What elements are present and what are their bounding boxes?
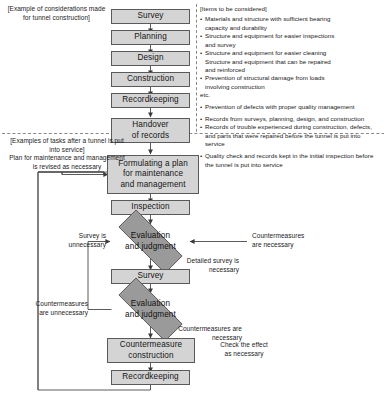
note-plan-revised-text: Plan for maintenance and management is r…: [6, 154, 128, 171]
evaluation2-line1: Evaluation: [125, 299, 176, 310]
node-construction[interactable]: Construction: [111, 72, 190, 87]
label-cm-unnecessary-l1: Countermeasures: [18, 300, 88, 309]
node-handover-line1: Handover: [132, 120, 168, 131]
node-recordkeeping-bottom[interactable]: Recordkeeping: [111, 370, 190, 385]
items-panel-line: Structure and equipment for easier clean…: [200, 49, 384, 57]
node-design[interactable]: Design: [111, 51, 190, 66]
items-panel-line: Structure and equipment for easier inspe…: [200, 32, 384, 40]
node-formulating-line3: and management: [120, 180, 185, 191]
node-countermeasure-line2: construction: [128, 351, 173, 362]
label-countermeasures-necessary-right: Countermeasures are necessary: [252, 232, 336, 249]
label-survey-unnecessary-l1: Survey is: [40, 232, 106, 241]
label-check-effect-l2: as necessary: [205, 350, 283, 359]
note-tasks-after-service: [Examples of tasks after a tunnel is put…: [6, 137, 128, 172]
node-evaluation-judgment-1[interactable]: Evaluation and judgment: [104, 224, 197, 259]
node-survey-top[interactable]: Survey: [111, 9, 190, 24]
label-check-effect-l1: Check the effect: [205, 341, 283, 350]
node-evaluation-judgment-2[interactable]: Evaluation and judgment: [104, 292, 197, 327]
node-evaluation-judgment-2-label: Evaluation and judgment: [104, 292, 197, 327]
items-panel-header: [Items to be considered]: [200, 5, 384, 13]
label-survey-unnecessary-l2: unnecessary: [40, 241, 106, 250]
items-panel-line: Records from surveys, planning, design, …: [200, 115, 384, 123]
items-panel-line: and parts that were repaired before the …: [200, 132, 384, 140]
evaluation1-line1: Evaluation: [125, 231, 176, 242]
label-cm-necessary-right-l1: Countermeasures: [252, 232, 336, 241]
note-tunnel-construction-example: [Example of considerations made for tunn…: [4, 5, 109, 22]
label-countermeasures-necessary-mid: Countermeasures are necessary: [157, 325, 242, 342]
label-cm-unnecessary-l2: are unnecessary: [18, 309, 88, 318]
items-panel-line: and survey: [200, 41, 384, 49]
items-panel-line: service: [200, 140, 384, 148]
node-planning[interactable]: Planning: [111, 30, 190, 45]
node-formulating-line2: for maintenance: [123, 169, 183, 180]
label-detailed-survey-l1: Detailed survey is: [157, 257, 239, 266]
items-panel-line: Records of trouble experienced during co…: [200, 123, 384, 131]
items-panel-line: the tunnel is put into service: [200, 161, 384, 169]
items-panel-line: involving construction: [200, 83, 384, 91]
label-cm-necessary-right-l2: are necessary: [252, 241, 336, 250]
items-panel-line: and reinforced: [200, 66, 384, 74]
items-to-be-considered-panel: [Items to be considered] Materials and s…: [200, 5, 384, 169]
node-inspection[interactable]: Inspection: [111, 200, 190, 215]
label-detailed-survey-l2: necessary: [157, 266, 239, 275]
label-detailed-survey-necessary: Detailed survey is necessary: [157, 257, 239, 274]
note-tasks-after-service-text: [Examples of tasks after a tunnel is put…: [6, 137, 128, 154]
items-panel-line: Quality check and records kept in the in…: [200, 152, 384, 160]
node-handover-line2: of records: [132, 131, 169, 142]
node-recordkeeping-top[interactable]: Recordkeeping: [111, 93, 190, 108]
items-panel-line: Prevention of structural damage from loa…: [200, 74, 384, 82]
items-panel-line: Materials and structure with sufficient …: [200, 15, 384, 23]
items-panel-line: Structure and equipment that can be repa…: [200, 58, 384, 66]
label-countermeasures-unnecessary: Countermeasures are unnecessary: [18, 300, 88, 317]
items-panel-line: capacity and durability: [200, 24, 384, 32]
label-cm-necessary-mid-l1: Countermeasures are: [157, 325, 242, 334]
flowchart-canvas: [Example of considerations made for tunn…: [0, 0, 386, 401]
label-check-the-effect: Check the effect as necessary: [205, 341, 283, 358]
label-survey-unnecessary: Survey is unnecessary: [40, 232, 106, 249]
items-panel-list: Materials and structure with sufficient …: [200, 15, 384, 169]
evaluation1-line2: and judgment: [125, 242, 176, 253]
node-formulating-line1: Formulating a plan: [118, 159, 188, 170]
evaluation2-line2: and judgment: [125, 310, 176, 321]
node-evaluation-judgment-1-label: Evaluation and judgment: [104, 224, 197, 259]
items-panel-line: Prevention of defects with proper qualit…: [200, 103, 384, 111]
items-panel-line-etc: etc.: [200, 91, 384, 99]
